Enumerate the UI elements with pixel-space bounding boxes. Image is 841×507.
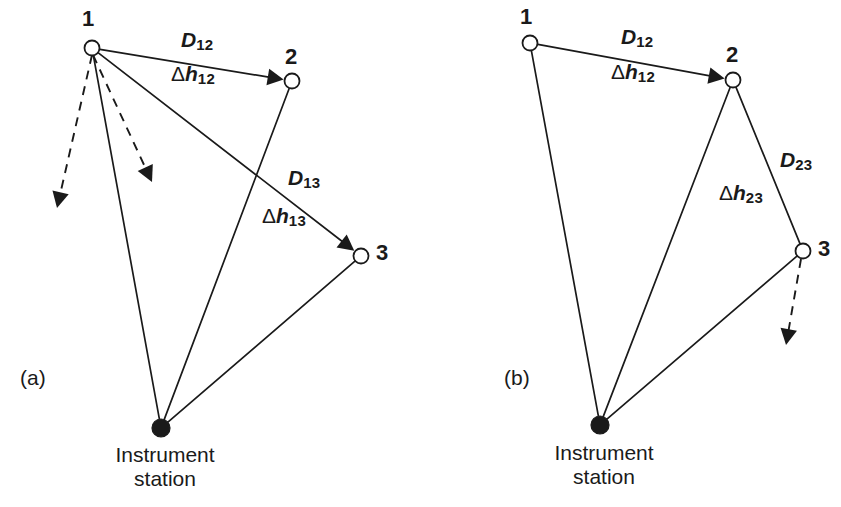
delta-symbol: Δ: [719, 181, 733, 204]
measure-label-a-d13: D13: [288, 166, 320, 192]
node-label-a-2: 2: [285, 44, 297, 69]
node-label-b-3: 3: [818, 236, 830, 261]
panel-a-graphics: [52, 41, 368, 438]
measure-label-a-dh13: Δh13: [262, 204, 306, 230]
measure-subscript: 23: [795, 156, 812, 173]
edge-node2-to-station: [164, 88, 289, 419]
measure-label-a-dh12: Δh12: [171, 62, 215, 88]
edge-node3-to-station: [607, 256, 797, 419]
survey-point-a-2: [285, 74, 300, 89]
station-caption-a: Instrument station: [115, 443, 214, 491]
measure-base: D: [780, 148, 795, 171]
node-label-b-2: 2: [726, 42, 738, 67]
measure-base: h: [185, 62, 198, 85]
measure-base: h: [625, 60, 638, 83]
measure-subscript: 12: [636, 33, 653, 50]
measure-label-b-d23: D23: [780, 148, 812, 174]
node-label-a-3: 3: [376, 240, 388, 265]
measure-base: h: [733, 181, 746, 204]
measure-label-a-d12: D12: [181, 28, 213, 54]
node-label-a-1: 1: [82, 6, 94, 31]
arrowhead-sight-ray-down: [781, 328, 797, 345]
measure-label-b-dh12: Δh12: [611, 60, 655, 86]
station-caption-b: Instrument station: [554, 441, 653, 489]
arrowhead-node1-to-node2: [707, 67, 724, 83]
measure-subscript: 23: [746, 189, 763, 206]
arrowhead-node1-to-node2: [266, 69, 283, 85]
delta-symbol: Δ: [611, 60, 625, 83]
measure-label-b-dh23: Δh23: [719, 181, 763, 207]
measure-subscript: 13: [303, 174, 320, 191]
panel-caption-a: (a): [20, 366, 46, 390]
figure-root: (a) 1 2 3 D12 Δh12 D13 Δh13 Instrument s…: [0, 0, 841, 507]
edge-node1-to-station: [93, 56, 159, 419]
dashed-sight-ray-right: [93, 55, 147, 170]
arrowhead-node1-to-node3: [337, 234, 355, 250]
measure-subscript: 13: [289, 212, 306, 229]
measure-subscript: 12: [638, 68, 655, 85]
survey-point-b-3: [796, 244, 811, 259]
diagram-canvas: [0, 0, 841, 507]
survey-point-a-3: [354, 249, 369, 264]
measure-base: h: [276, 204, 289, 227]
edge-node3-to-station: [168, 261, 355, 422]
station-caption-line2: station: [115, 467, 214, 491]
delta-symbol: Δ: [171, 62, 185, 85]
arrowhead-sight-ray-left: [52, 191, 68, 208]
panel-b-graphics: [523, 36, 811, 435]
station-caption-line1: Instrument: [554, 441, 653, 465]
arrowhead-sight-ray-right: [138, 164, 153, 182]
measure-subscript: 12: [198, 70, 215, 87]
measure-label-b-d12: D12: [621, 25, 653, 51]
survey-point-b-1: [523, 36, 538, 51]
station-caption-line2: station: [554, 465, 653, 489]
measure-base: D: [181, 28, 196, 51]
node-label-b-1: 1: [520, 4, 532, 29]
survey-point-b-2: [726, 73, 741, 88]
panel-caption-b: (b): [504, 366, 530, 390]
measure-base: D: [288, 166, 303, 189]
survey-point-a-1: [85, 41, 100, 56]
dashed-sight-ray-down: [788, 259, 801, 332]
station-caption-line1: Instrument: [115, 443, 214, 467]
instrument-station-marker-b: [591, 416, 609, 434]
instrument-station-marker-a: [152, 419, 170, 437]
dashed-sight-ray-left: [60, 55, 92, 195]
delta-symbol: Δ: [262, 204, 276, 227]
edge-node1-to-station: [531, 51, 598, 416]
measure-subscript: 12: [196, 36, 213, 53]
measure-base: D: [621, 25, 636, 48]
